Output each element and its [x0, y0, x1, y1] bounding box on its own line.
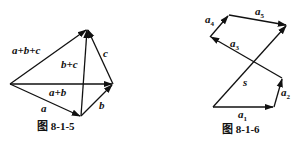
label-b-plus-c: b+c: [61, 58, 78, 70]
label-a1: a1: [238, 108, 248, 123]
caption-8-1-6: 图 8-1-6: [222, 123, 260, 135]
caption-8-1-5: 图 8-1-5: [37, 120, 75, 132]
figure-8-1-5: [10, 30, 113, 116]
vector-a-plus-b-plus-c: [10, 30, 86, 84]
figure-8-1-6: [210, 15, 286, 107]
vector-c: [88, 30, 113, 84]
label-a-plus-b: a+b: [49, 86, 67, 98]
label-a: a: [41, 102, 47, 114]
label-a4: a4: [205, 13, 215, 28]
vector-b: [81, 85, 112, 116]
label-a2: a2: [281, 86, 291, 101]
label-b: b: [99, 99, 105, 111]
label-a3: a3: [230, 37, 240, 52]
label-c: c: [103, 47, 108, 59]
vector-diagrams: a+b+c b+c c a+b a b 图 8-1-5 a5 a4 a3 s a…: [0, 0, 298, 149]
vector-b-plus-c: [81, 30, 87, 116]
label-a5: a5: [255, 5, 265, 20]
label-a-plus-b-plus-c: a+b+c: [12, 44, 41, 56]
vector-s: [213, 26, 286, 107]
label-s: s: [242, 76, 247, 88]
